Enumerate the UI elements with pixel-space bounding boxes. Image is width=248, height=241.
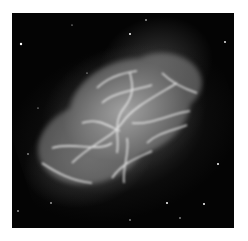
- nebula-filaments: [12, 13, 234, 228]
- nebula-photo: [12, 13, 234, 228]
